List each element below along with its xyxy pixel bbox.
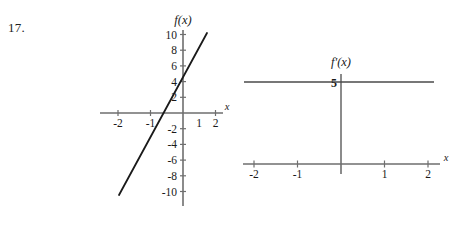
fx-y-tick-label-4: 4	[171, 76, 177, 88]
fx-axis-title: f(x)	[174, 13, 191, 27]
fx-plot: f(x) 10 8 6 4 2 -2 -4 -6 -8 -10 -2 -1 1 …	[95, 10, 235, 220]
fx-y-tick-label-neg2: -2	[167, 123, 177, 135]
fx-x-axis-variable: x	[224, 101, 230, 112]
figure-fx: f(x) 10 8 6 4 2 -2 -4 -6 -8 -10 -2 -1 1 …	[95, 10, 235, 220]
problem-number: 17.	[8, 20, 25, 36]
fx-x-tick-label-1: 1	[196, 117, 202, 129]
fprime-axis-title: f'(x)	[331, 55, 351, 69]
fx-curve	[119, 33, 207, 195]
fx-y-tick-label-neg4: -4	[167, 138, 177, 150]
fx-x-tick-label-neg1: -1	[146, 117, 156, 129]
fprime-x-axis-variable: x	[443, 152, 449, 163]
figure-fprime: f'(x) 5 -2 -1 1 2 x	[238, 50, 463, 180]
fprime-x-tick-label-neg2: -2	[249, 168, 259, 180]
fx-y-tick-label-neg6: -6	[167, 154, 177, 166]
fprime-value-label: 5	[331, 76, 337, 90]
fx-y-tick-label-neg10: -10	[162, 186, 178, 198]
fprime-x-tick-label-1: 1	[382, 168, 388, 180]
fprime-plot: f'(x) 5 -2 -1 1 2 x	[238, 50, 463, 180]
fx-x-tick-label-neg2: -2	[113, 117, 123, 129]
fprime-x-tick-label-neg1: -1	[293, 168, 303, 180]
fx-x-tick-label-2: 2	[213, 117, 219, 129]
fx-y-tick-label-6: 6	[171, 60, 177, 72]
fx-y-tick-label-neg8: -8	[167, 170, 177, 182]
worksheet-page: 17.	[0, 0, 471, 230]
fx-y-tick-label-2: 2	[171, 91, 177, 103]
fprime-x-tick-label-2: 2	[425, 168, 431, 180]
fx-y-tick-label-8: 8	[171, 44, 177, 56]
fx-y-tick-label-10: 10	[166, 29, 178, 41]
